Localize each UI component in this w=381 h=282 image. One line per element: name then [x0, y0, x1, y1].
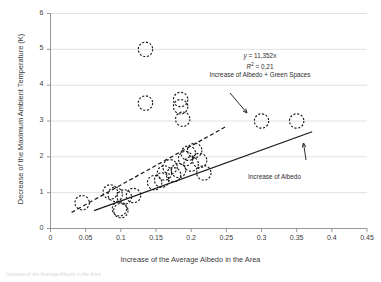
y-axis-title: Decrease of the Maximum Ambient Temperat… [13, 0, 27, 238]
x-tick-label: 0.3 [247, 234, 277, 241]
gridlines [51, 14, 368, 193]
x-tick-label: 0.4 [317, 234, 347, 241]
equation-line-3: Increase of Albedo + Green Spaces [196, 71, 324, 80]
x-tick-label: 0 [36, 234, 66, 241]
x-tick-label: 0.35 [282, 234, 312, 241]
x-tick-label: 0.2 [176, 234, 206, 241]
equation-line-2-rest: = 0,21 [254, 63, 274, 70]
equation-line-1: y = 11,352x [196, 52, 324, 61]
equation-annotation: y = 11,352x R2 = 0,21 Increase of Albedo… [196, 52, 324, 80]
y-tick-label: 0 [30, 224, 44, 231]
y-tick-label: 2 [30, 152, 44, 159]
y-tick-label: 6 [30, 9, 44, 16]
x-axis-title: Increase of the Average Albedo in the Ar… [0, 255, 381, 264]
equation-line-1-rest: = 11,352x [247, 52, 277, 59]
x-tick-label: 0.45 [352, 234, 381, 241]
albedo-annotation: Increase of Albedo [248, 173, 301, 180]
x-tick-label: 0.1 [106, 234, 136, 241]
y-tick-label: 1 [30, 188, 44, 195]
y-tick-label: 4 [30, 80, 44, 87]
x-tick-label: 0.25 [211, 234, 241, 241]
x-tick-label: 0.05 [71, 234, 101, 241]
y-tick-label: 3 [30, 116, 44, 123]
y-tick-label: 5 [30, 44, 44, 51]
x-tick-label: 0.15 [141, 234, 171, 241]
equation-line-2: R2 = 0,21 [196, 61, 324, 72]
annotation-arrows [230, 93, 306, 160]
trendlines [72, 126, 313, 212]
figure-caption-cutoff: Increase of the Average Albedo in the Ar… [0, 271, 381, 277]
